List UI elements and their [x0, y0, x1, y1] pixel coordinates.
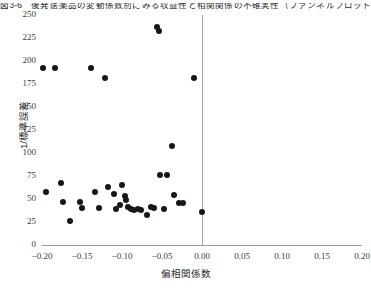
y-tick-label: 175 — [0, 78, 36, 88]
scatter-point — [105, 184, 111, 190]
scatter-point — [102, 75, 108, 81]
scatter-point — [52, 65, 58, 71]
y-tick-label: 225 — [0, 32, 36, 42]
scatter-point — [40, 65, 46, 71]
scatter-point — [77, 199, 83, 205]
scatter-point — [151, 205, 157, 211]
scatter-point — [92, 189, 98, 195]
scatter-point — [191, 75, 197, 81]
funnel-plot-scatter: 1/標準誤差 偏相関係数 025507510012515017520022525… — [0, 0, 371, 288]
scatter-point — [111, 191, 117, 197]
y-tick-label: 200 — [0, 55, 36, 65]
y-tick-label: 75 — [0, 170, 36, 180]
y-tick-label: 50 — [0, 193, 36, 203]
scatter-point — [67, 218, 73, 224]
scatter-point — [119, 182, 125, 188]
y-tick-label: 25 — [0, 216, 36, 226]
scatter-point — [60, 199, 66, 205]
x-axis-title: 偏相関係数 — [0, 266, 371, 280]
scatter-point — [96, 205, 102, 211]
y-tick-label: 150 — [0, 101, 36, 111]
x-axis-line — [42, 245, 362, 246]
scatter-point — [169, 143, 175, 149]
scatter-point — [123, 197, 129, 203]
scatter-point — [157, 172, 163, 178]
scatter-point — [79, 205, 85, 211]
y-tick-label: 125 — [0, 124, 36, 134]
y-tick-label: 0 — [0, 239, 36, 249]
scatter-point — [144, 212, 150, 218]
y-tick-label: 100 — [0, 147, 36, 157]
scatter-point — [138, 207, 144, 213]
scatter-point — [88, 65, 94, 71]
scatter-point — [156, 28, 162, 34]
scatter-point — [171, 192, 177, 198]
scatter-point — [180, 200, 186, 206]
scatter-point — [43, 189, 49, 195]
scatter-point — [117, 202, 123, 208]
scatter-point — [58, 180, 64, 186]
scatter-point — [199, 209, 205, 215]
x-tick-label: 0.20 — [337, 251, 371, 261]
scatter-point — [164, 172, 170, 178]
scatter-point — [161, 206, 167, 212]
y-tick-label: 250 — [0, 9, 36, 19]
